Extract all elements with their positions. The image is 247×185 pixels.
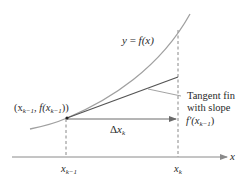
curve-label: y = f(x) [121,34,154,47]
point-label: (xk−1, f(xk−1)) [14,102,69,115]
tangent-label-line3: f′(xk−1) [186,115,215,128]
point-xk-minus-1 [65,116,68,119]
x-axis-label: x [229,150,235,162]
delta-x-label: Δxk [110,123,126,137]
tick-label-xk-minus-1: xk−1 [60,163,77,176]
tick-label-xk: xk [173,163,183,176]
tangent-label-line1: Tangent fin [187,90,236,101]
tangent-fin-diagram: x y = f(x) (xk−1, f(xk−1)) Tangent fin w… [0,0,247,185]
tangent-line [67,77,178,118]
tangent-leader-line [148,89,181,96]
tangent-label-line2: with slope [187,102,231,113]
